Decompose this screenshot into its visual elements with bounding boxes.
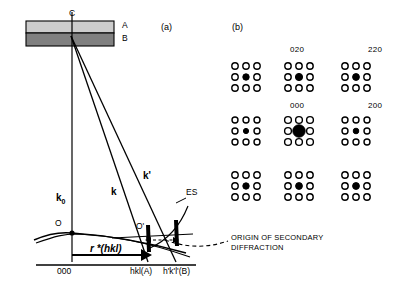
secondary-reflection-spot	[307, 194, 313, 200]
secondary-reflection-spot	[296, 117, 303, 124]
secondary-reflection-spot	[296, 172, 302, 178]
secondary-reflection-spot	[254, 172, 260, 178]
secondary-reflection-spot	[254, 139, 260, 145]
secondary-reflection-spot	[285, 172, 291, 178]
secondary-reflection-spot	[285, 63, 291, 69]
secondary-reflection-spot	[353, 139, 359, 145]
secondary-reflection-spot	[364, 172, 370, 178]
secondary-reflection-spot	[342, 74, 348, 80]
secondary-reflection-spot	[296, 63, 302, 69]
primary-reflection-spot	[293, 125, 305, 137]
secondary-reflection-spot	[254, 63, 260, 69]
secondary-reflection-spot	[285, 117, 292, 124]
secondary-reflection-spot	[342, 172, 348, 178]
secondary-reflection-spot	[232, 128, 238, 134]
cluster-row2-col1	[232, 117, 260, 145]
vector-k-label: k	[111, 186, 117, 198]
secondary-reflection-spot	[232, 63, 238, 69]
secondary-reflection-spot	[243, 172, 249, 178]
secondary-reflection-spot	[364, 63, 370, 69]
secondary-reflection-spot	[353, 85, 359, 91]
secondary-reflection-spot	[307, 172, 313, 178]
secondary-reflection-spot	[243, 139, 249, 145]
secondary-reflection-spot	[364, 117, 370, 123]
secondary-reflection-spot	[296, 139, 303, 146]
secondary-reflection-spot	[254, 74, 260, 80]
secondary-reflection-spot	[254, 117, 260, 123]
secondary-reflection-spot	[307, 74, 313, 80]
secondary-reflection-spot	[364, 74, 370, 80]
secondary-reflection-spot	[342, 194, 348, 200]
secondary-reflection-spot	[353, 172, 359, 178]
secondary-reflection-spot	[285, 74, 291, 80]
secondary-reflection-spot	[285, 139, 292, 146]
secondary-reflection-spot	[342, 63, 348, 69]
secondary-reflection-spot	[364, 128, 370, 134]
vector-k-prime-label: k'	[143, 170, 151, 182]
secondary-reflection-spot	[243, 63, 249, 69]
secondary-reflection-spot	[307, 117, 314, 124]
cluster-200	[342, 117, 370, 145]
secondary-reflection-spot	[243, 85, 249, 91]
secondary-reflection-spot	[342, 183, 348, 189]
secondary-reflection-spot	[364, 85, 370, 91]
secondary-reflection-spot	[254, 85, 260, 91]
panel-a-tag: (a)	[161, 22, 172, 32]
figure-root: (a) (b) C A B k0 k k' r *(hkl) O O' ES 0…	[0, 0, 401, 287]
annotation-line-2: DIFFRACTION	[231, 243, 323, 253]
secondary-reflection-spot	[285, 183, 291, 189]
secondary-reflection-spot	[364, 183, 370, 189]
spot-index-000: 000	[290, 101, 304, 110]
point-o-prime-label: O'	[136, 222, 144, 232]
secondary-reflection-spot	[285, 194, 291, 200]
spot-index-200: 200	[368, 101, 382, 110]
cluster-row3-col1	[232, 172, 260, 200]
vector-r-star-label: r *(hkl)	[90, 243, 122, 255]
secondary-reflection-spot	[353, 63, 359, 69]
secondary-reflection-spot	[342, 128, 348, 134]
primary-reflection-spot	[353, 128, 359, 134]
vector-k0-label: k0	[56, 192, 65, 206]
secondary-reflection-spot	[232, 172, 238, 178]
secondary-reflection-spot	[243, 194, 249, 200]
secondary-reflection-spot	[364, 139, 370, 145]
secondary-reflection-spot	[342, 117, 348, 123]
secondary-reflection-spot	[254, 194, 260, 200]
spot-clusters-group	[232, 63, 370, 200]
spot-index-020: 020	[290, 45, 304, 54]
secondary-reflection-spot	[296, 194, 302, 200]
secondary-reflection-spot	[296, 85, 302, 91]
secondary-reflection-spot	[232, 117, 238, 123]
secondary-diffraction-annotation: ORIGIN OF SECONDARY DIFFRACTION	[231, 233, 323, 253]
secondary-reflection-spot	[232, 183, 238, 189]
primary-reflection-spot	[243, 128, 248, 133]
secondary-reflection-spot	[342, 139, 348, 145]
secondary-reflection-spot	[342, 85, 348, 91]
cluster-row3-col3	[342, 172, 370, 200]
annotation-line-1: ORIGIN OF SECONDARY	[231, 233, 323, 243]
cluster-020	[285, 63, 313, 91]
secondary-reflection-spot	[307, 183, 313, 189]
vector-k0-subscript: 0	[62, 198, 66, 205]
secondary-reflection-spot	[353, 117, 359, 123]
secondary-reflection-spot	[232, 194, 238, 200]
origin-000-label: 000	[57, 267, 71, 277]
spot-hkl-a-label: hkl(A)	[130, 267, 152, 277]
secondary-reflection-spot	[307, 139, 314, 146]
secondary-reflection-spot	[232, 139, 238, 145]
secondary-reflection-spot	[232, 85, 238, 91]
primary-reflection-spot	[243, 183, 249, 189]
cluster-row3-col2	[285, 172, 313, 200]
diffraction-pattern-layer	[0, 0, 401, 287]
secondary-reflection-spot	[353, 194, 359, 200]
secondary-reflection-spot	[232, 74, 238, 80]
primary-reflection-spot	[295, 73, 302, 80]
cluster-220	[342, 63, 370, 91]
cluster-row1-col1	[232, 63, 260, 91]
primary-reflection-spot	[353, 74, 360, 81]
secondary-reflection-spot	[243, 117, 249, 123]
primary-reflection-spot	[296, 183, 303, 190]
cluster-000	[285, 117, 314, 146]
layer-a-label: A	[122, 21, 128, 31]
primary-reflection-spot	[243, 74, 249, 80]
